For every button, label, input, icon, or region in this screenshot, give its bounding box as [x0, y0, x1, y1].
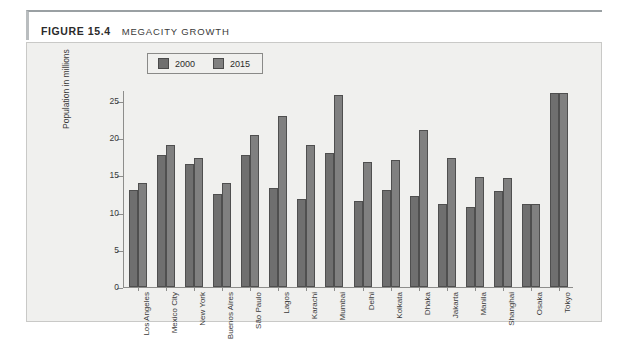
- x-label-cell: Mexico City: [152, 292, 180, 343]
- x-axis-tick-label: Jakarta: [451, 292, 460, 318]
- x-tick-mark: [166, 287, 167, 291]
- bar-group: [517, 91, 545, 287]
- x-tick-mark: [531, 287, 532, 291]
- x-axis-tick-label: Kolkata: [395, 292, 404, 319]
- x-tick-mark: [138, 287, 139, 291]
- x-tick-mark: [306, 287, 307, 291]
- legend-item: 2015: [213, 58, 250, 69]
- page-title: MEGACITY GROWTH: [122, 26, 230, 37]
- x-label-cell: Shanghai: [489, 292, 517, 343]
- x-label-cell: New York: [180, 292, 208, 343]
- bar-group: [208, 91, 236, 287]
- bar: [129, 190, 138, 287]
- bar: [419, 130, 428, 287]
- bar-group: [152, 91, 180, 287]
- bar-group: [180, 91, 208, 287]
- x-tick-mark: [559, 287, 560, 291]
- x-axis-tick-label: Osaka: [535, 292, 544, 315]
- y-tick-label: 0: [114, 282, 119, 292]
- x-tick-mark: [363, 287, 364, 291]
- bar-group: [377, 91, 405, 287]
- x-label-cell: Tokyo: [545, 292, 573, 343]
- figure-header-text: FIGURE 15.4MEGACITY GROWTH: [41, 21, 230, 39]
- bar: [306, 145, 315, 287]
- figure-header: FIGURE 15.4MEGACITY GROWTH: [26, 10, 602, 40]
- bar-group: [320, 91, 348, 287]
- bar: [522, 204, 531, 287]
- x-label-cell: Buenos Aires: [208, 292, 236, 343]
- y-tick-label: 15: [110, 170, 119, 180]
- x-axis-labels: Los AngelesMexico CityNew YorkBuenos Air…: [124, 292, 573, 343]
- x-tick-mark: [194, 287, 195, 291]
- bar: [334, 95, 343, 287]
- bar: [157, 155, 166, 287]
- chart-legend: 20002015: [147, 53, 263, 74]
- bar: [213, 194, 222, 287]
- bar: [325, 153, 334, 287]
- bar: [391, 160, 400, 287]
- x-tick-mark: [334, 287, 335, 291]
- x-tick-mark: [475, 287, 476, 291]
- x-label-cell: Jakarta: [433, 292, 461, 343]
- bar: [363, 162, 372, 287]
- bar: [138, 183, 147, 287]
- bar: [222, 183, 231, 287]
- x-axis-tick-label: Mexico City: [170, 292, 179, 333]
- bar: [410, 196, 419, 287]
- x-axis-line: [123, 287, 573, 288]
- x-axis-tick-label: Los Angeles: [142, 292, 151, 336]
- legend-swatch-icon: [158, 58, 169, 69]
- x-label-cell: Kolkata: [377, 292, 405, 343]
- x-label-cell: Mumbai: [320, 292, 348, 343]
- bar: [166, 145, 175, 287]
- x-tick-mark: [503, 287, 504, 291]
- bar: [241, 155, 250, 287]
- legend-swatch-icon: [213, 58, 224, 69]
- y-tick-label: 5: [114, 245, 119, 255]
- x-label-cell: Delhi: [349, 292, 377, 343]
- x-axis-tick-label: Shanghai: [507, 292, 516, 326]
- x-tick-mark: [222, 287, 223, 291]
- x-label-cell: Los Angeles: [124, 292, 152, 343]
- bar: [531, 204, 540, 287]
- plot-area: 0510152025: [123, 91, 573, 288]
- x-tick-mark: [419, 287, 420, 291]
- y-tick-label: 20: [110, 133, 119, 143]
- x-axis-tick-label: Mumbai: [338, 292, 347, 320]
- x-axis-tick-label: São Paulo: [254, 292, 263, 329]
- bar: [447, 158, 456, 287]
- x-axis-tick-label: Lagos: [282, 292, 291, 314]
- bar-group: [264, 91, 292, 287]
- bar: [194, 158, 203, 287]
- bar: [494, 191, 503, 287]
- bar: [550, 93, 559, 287]
- bar: [503, 178, 512, 287]
- bar: [297, 199, 306, 287]
- y-tick-label: 25: [110, 96, 119, 106]
- x-axis-tick-label: Dhaka: [423, 292, 432, 315]
- x-axis-tick-label: Delhi: [367, 292, 376, 310]
- x-label-cell: Dhaka: [405, 292, 433, 343]
- bar-groups: [124, 91, 573, 287]
- bar-group: [405, 91, 433, 287]
- y-tick-label: 10: [110, 208, 119, 218]
- bar: [475, 177, 484, 287]
- bar: [466, 207, 475, 287]
- bar: [354, 201, 363, 287]
- x-label-cell: Manila: [461, 292, 489, 343]
- bar-group: [461, 91, 489, 287]
- bar: [278, 116, 287, 287]
- x-label-cell: Lagos: [264, 292, 292, 343]
- x-axis-tick-label: Manila: [479, 292, 488, 316]
- legend-label: 2000: [175, 59, 195, 69]
- bar: [185, 164, 194, 287]
- bar-group: [236, 91, 264, 287]
- x-axis-tick-label: Tokyo: [563, 292, 572, 313]
- chart-panel: 20002015 Population in millions 05101520…: [26, 42, 602, 322]
- x-tick-mark: [250, 287, 251, 291]
- bar-group: [349, 91, 377, 287]
- bar-group: [545, 91, 573, 287]
- figure-container: FIGURE 15.4MEGACITY GROWTH 20002015 Popu…: [26, 10, 602, 326]
- figure-number: FIGURE 15.4: [41, 25, 111, 37]
- x-tick-mark: [391, 287, 392, 291]
